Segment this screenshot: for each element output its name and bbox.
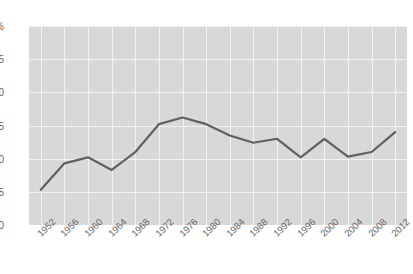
x-axis-labels: 1952195619601964196819721976198019841988… <box>0 0 413 274</box>
x-axis-tick-label: 1956 <box>58 216 81 239</box>
x-axis-tick-label: 1984 <box>224 216 247 239</box>
x-axis-tick-label: 1976 <box>177 216 200 239</box>
x-axis-tick-label: 2012 <box>389 216 412 239</box>
line-chart: 051015202530% 19521956196019641968197219… <box>0 0 413 274</box>
x-axis-tick-label: 2004 <box>342 216 365 239</box>
x-axis-tick-label: 1996 <box>295 216 318 239</box>
x-axis-tick-label: 2008 <box>366 216 389 239</box>
x-axis-tick-label: 1992 <box>271 216 294 239</box>
x-axis-tick-label: 1952 <box>35 216 58 239</box>
x-axis-tick-label: 1968 <box>129 216 152 239</box>
x-axis-tick-label: 1980 <box>200 216 223 239</box>
x-axis-tick-label: 1960 <box>82 216 105 239</box>
x-axis-tick-label: 1964 <box>106 216 129 239</box>
x-axis-tick-label: 1972 <box>153 216 176 239</box>
x-axis-tick-label: 1988 <box>247 216 270 239</box>
x-axis-tick-label: 2000 <box>318 216 341 239</box>
